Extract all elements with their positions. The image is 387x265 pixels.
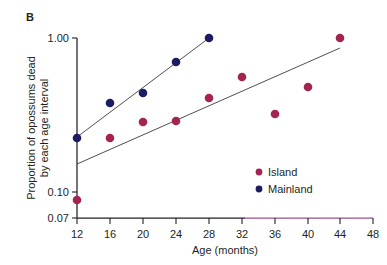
- legend: Island Mainland: [256, 166, 313, 195]
- data-point: [271, 110, 280, 119]
- y-axis-title-line2: by each age interval: [38, 79, 50, 177]
- x-tick-label: 20: [137, 228, 149, 240]
- data-point: [172, 117, 181, 126]
- data-point: [73, 134, 82, 143]
- data-point: [139, 89, 148, 98]
- x-tick-group: 12 16 20 24 28 32 36 40 44 48: [71, 218, 379, 240]
- y-tick-group: 1.00 0.10 0.07: [48, 32, 77, 224]
- figure-panel-b: B 1.00 0.10 0.07 12 16 20 24 28: [0, 0, 387, 265]
- x-tick-label: 44: [334, 228, 346, 240]
- x-tick-label: 48: [367, 228, 379, 240]
- trend-line-island: [77, 48, 340, 164]
- y-tick-label: 1.00: [48, 32, 69, 44]
- data-point: [336, 34, 345, 43]
- data-point: [304, 83, 313, 92]
- legend-label-island: Island: [268, 166, 297, 178]
- data-point: [205, 34, 214, 43]
- x-axis-title: Age (months): [192, 244, 258, 256]
- y-tick-label: 0.07: [48, 212, 69, 224]
- data-point: [106, 99, 115, 108]
- x-tick-label: 12: [71, 228, 83, 240]
- x-tick-label: 36: [269, 228, 281, 240]
- x-tick-label: 28: [203, 228, 215, 240]
- x-tick-label: 16: [104, 228, 116, 240]
- legend-swatch-island: [256, 169, 263, 176]
- data-point: [106, 134, 115, 143]
- x-tick-label: 40: [302, 228, 314, 240]
- x-tick-label: 32: [236, 228, 248, 240]
- chart-svg: 1.00 0.10 0.07 12 16 20 24 28 32 36 40: [0, 0, 387, 265]
- data-point: [205, 94, 214, 103]
- data-point: [172, 58, 181, 67]
- y-tick-label: 0.10: [48, 186, 69, 198]
- data-point: [238, 73, 247, 82]
- y-axis-title-line1: Proportion of opossums dead: [25, 56, 37, 200]
- data-point: [73, 196, 82, 205]
- data-point: [139, 118, 148, 127]
- series-island-points: [73, 34, 345, 205]
- legend-label-mainland: Mainland: [268, 183, 313, 195]
- legend-swatch-mainland: [256, 186, 263, 193]
- x-tick-label: 24: [170, 228, 182, 240]
